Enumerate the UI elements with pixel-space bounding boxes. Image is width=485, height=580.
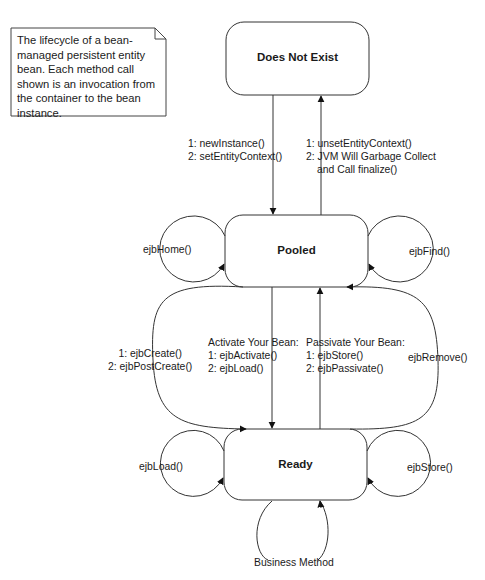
label-line: 2: ejbPostCreate() [108,360,192,373]
label-line: 1: ejbActivate() [208,349,299,362]
state-label-does-not-exist: Does Not Exist [226,51,369,63]
note-line: instance. [17,106,167,121]
label-ready-ejbstore: ejbStore() [407,461,453,474]
label-line: 1: ejbStore() [306,349,405,362]
note-line: shown is an invocation from [17,77,167,92]
note-line: managed persistent entity [17,48,167,63]
label-line: 2: ejbLoad() [208,362,299,375]
note-text: The lifecycle of a bean- managed persist… [17,33,167,120]
label-activate: Activate Your Bean: 1: ejbActivate() 2: … [208,336,299,375]
label-to-pooled: 1: newInstance() 2: setEntityContext() [188,137,282,163]
note-line: bean. Each method call [17,62,167,77]
label-line: 2: JVM Will Garbage Collect [306,150,436,163]
state-label-ready: Ready [224,458,367,470]
label-line: Passivate Your Bean: [306,336,405,349]
label-ejbhome: ejbHome() [143,243,192,256]
label-passivate: Passivate Your Bean: 1: ejbStore() 2: ej… [306,336,405,375]
label-business-method: Business Method [254,556,334,569]
label-line: 2: ejbPassivate() [306,362,405,375]
state-label-pooled: Pooled [225,244,368,256]
loop-business-method [257,501,328,560]
note-line: The lifecycle of a bean- [17,33,167,48]
label-to-does-not-exist: 1: unsetEntityContext() 2: JVM Will Garb… [306,137,436,176]
label-line: 1: ejbCreate() [108,347,192,360]
label-line: 1: newInstance() [188,137,282,150]
label-line: 2: setEntityContext() [188,150,282,163]
label-line: 1: unsetEntityContext() [306,137,436,150]
label-line: Activate Your Bean: [208,336,299,349]
label-line: and Call finalize() [306,163,436,176]
label-create: 1: ejbCreate() 2: ejbPostCreate() [108,347,192,373]
label-remove: ejbRemove() [408,351,467,364]
label-ready-ejbload: ejbLoad() [139,460,183,473]
note-line: the container to the bean [17,91,167,106]
label-ejbfind: ejbFind() [409,245,450,258]
